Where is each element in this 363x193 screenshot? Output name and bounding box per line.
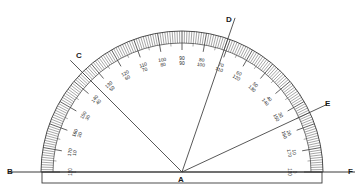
- svg-text:170: 170: [286, 149, 292, 158]
- svg-text:100: 100: [197, 62, 206, 68]
- protractor-drawing: 0180101702016030150401405013060120701108…: [0, 0, 363, 193]
- svg-text:60: 60: [124, 74, 131, 81]
- point-label-E: E: [325, 100, 330, 108]
- point-label-D: D: [226, 16, 232, 24]
- protractor-figure: 0180101702016030150401405013060120701108…: [0, 0, 363, 193]
- point-label-B: B: [7, 168, 13, 176]
- svg-text:10: 10: [72, 150, 78, 156]
- degree-scale-numbers: 0180101702016030150401405013060120701108…: [67, 56, 298, 177]
- svg-text:30: 30: [84, 114, 91, 121]
- protractor-body: [41, 31, 323, 183]
- point-label-C: C: [76, 52, 82, 60]
- degree-tick-marks: [41, 31, 323, 172]
- svg-text:70: 70: [141, 66, 148, 73]
- svg-text:80: 80: [160, 62, 166, 68]
- point-label-F: F: [348, 168, 353, 176]
- svg-text:20: 20: [76, 131, 83, 138]
- svg-text:90: 90: [179, 61, 185, 66]
- point-label-A: A: [178, 176, 184, 184]
